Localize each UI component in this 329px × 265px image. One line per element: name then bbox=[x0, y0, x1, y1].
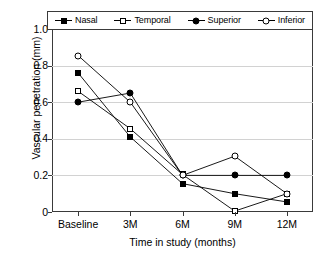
data-point-nasal-9m bbox=[232, 191, 238, 197]
legend-label-inferior: Inferior bbox=[278, 16, 305, 25]
x-tick-mark bbox=[235, 212, 236, 216]
y-tick-label: 0.4 bbox=[20, 133, 48, 144]
data-point-inferior-3m bbox=[127, 99, 134, 106]
data-point-superior-3m bbox=[127, 90, 134, 97]
y-tick-label: 0.6 bbox=[20, 97, 48, 108]
x-tick-label: 6M bbox=[175, 219, 190, 230]
legend-entry-superior: Superior bbox=[188, 15, 241, 26]
data-point-nasal-12m bbox=[284, 199, 290, 205]
filled-circle-marker-icon bbox=[188, 15, 205, 26]
data-point-superior-12m bbox=[283, 172, 290, 179]
data-point-inferior-baseline bbox=[75, 52, 82, 59]
x-tick-label: Baseline bbox=[58, 219, 98, 230]
data-point-nasal-6m bbox=[180, 181, 186, 187]
x-tick-mark bbox=[130, 212, 131, 216]
x-tick-mark bbox=[78, 212, 79, 216]
data-point-nasal-baseline bbox=[75, 70, 81, 76]
filled-square-marker-icon bbox=[55, 15, 72, 26]
y-tick-label: 0.8 bbox=[20, 60, 48, 71]
vascular-penetration-line-chart: Nasal Temporal Superior Inferior Vascula… bbox=[0, 0, 329, 265]
x-tick-mark bbox=[183, 212, 184, 216]
legend-label-nasal: Nasal bbox=[75, 16, 98, 25]
chart-legend: Nasal Temporal Superior Inferior bbox=[47, 11, 313, 30]
data-point-temporal-baseline bbox=[75, 88, 81, 94]
x-tick-label: 12M bbox=[277, 219, 297, 230]
plot-area bbox=[52, 29, 313, 212]
legend-label-temporal: Temporal bbox=[134, 16, 170, 25]
y-tick-label: 0.2 bbox=[20, 170, 48, 181]
data-point-nasal-3m bbox=[127, 134, 133, 140]
x-tick-mark bbox=[287, 212, 288, 216]
data-point-temporal-3m bbox=[127, 126, 133, 132]
data-point-inferior-12m bbox=[283, 190, 290, 197]
data-point-inferior-6m bbox=[179, 172, 186, 179]
legend-entry-temporal: Temporal bbox=[114, 15, 170, 26]
series-line-superior bbox=[78, 93, 287, 175]
y-tick-label: 1.0 bbox=[20, 24, 48, 35]
y-axis-tick-labels: 00.20.40.60.81.0 bbox=[16, 0, 48, 265]
data-point-inferior-9m bbox=[231, 153, 238, 160]
x-axis-title: Time in study (months) bbox=[52, 236, 313, 248]
series-line-temporal bbox=[78, 91, 287, 211]
legend-label-superior: Superior bbox=[208, 16, 241, 25]
legend-entry-nasal: Nasal bbox=[55, 15, 98, 26]
y-tick-mark bbox=[48, 212, 52, 213]
y-tick-label: 0 bbox=[20, 207, 48, 218]
data-point-superior-baseline bbox=[75, 99, 82, 106]
open-square-marker-icon bbox=[114, 15, 131, 26]
data-point-superior-9m bbox=[231, 172, 238, 179]
x-tick-label: 9M bbox=[227, 219, 242, 230]
page-edge-artifact bbox=[0, 256, 329, 265]
open-circle-marker-icon bbox=[258, 15, 275, 26]
x-tick-label: 3M bbox=[123, 219, 138, 230]
legend-entry-inferior: Inferior bbox=[258, 15, 305, 26]
